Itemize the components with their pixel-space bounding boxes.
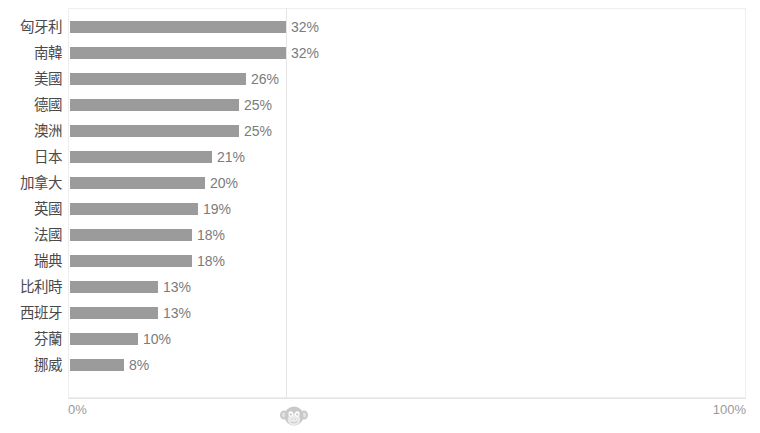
category-label: 芬蘭 <box>0 326 62 352</box>
bar-row: 匈牙利32% <box>0 14 760 40</box>
bar-value-label: 21% <box>217 144 245 170</box>
category-label: 德國 <box>0 92 62 118</box>
x-axis-tick-max: 100% <box>713 402 746 417</box>
bar-row: 瑞典18% <box>0 248 760 274</box>
bar <box>70 151 212 163</box>
bar-value-label: 19% <box>203 196 231 222</box>
bar <box>70 203 198 215</box>
bar-row: 英國19% <box>0 196 760 222</box>
bar-value-label: 18% <box>197 248 225 274</box>
bar <box>70 359 124 371</box>
category-label: 英國 <box>0 196 62 222</box>
bar-value-label: 10% <box>143 326 171 352</box>
category-label: 比利時 <box>0 274 62 300</box>
bar-row: 芬蘭10% <box>0 326 760 352</box>
bar <box>70 99 239 111</box>
category-label: 西班牙 <box>0 300 62 326</box>
bar <box>70 177 205 189</box>
bar <box>70 333 138 345</box>
bar-value-label: 32% <box>291 14 319 40</box>
bar <box>70 21 286 33</box>
category-label: 日本 <box>0 144 62 170</box>
bar <box>70 125 239 137</box>
bar-row: 德國25% <box>0 92 760 118</box>
bar-row: 挪威8% <box>0 352 760 378</box>
bar-value-label: 13% <box>163 274 191 300</box>
x-axis-tick-min: 0% <box>68 402 87 417</box>
bar-rows: 匈牙利32%南韓32%美國26%德國25%澳洲25%日本21%加拿大20%英國1… <box>0 8 760 398</box>
category-label: 美國 <box>0 66 62 92</box>
bar-value-label: 25% <box>244 92 272 118</box>
bar <box>70 307 158 319</box>
category-label: 匈牙利 <box>0 14 62 40</box>
bar-value-label: 32% <box>291 40 319 66</box>
bar-value-label: 13% <box>163 300 191 326</box>
cropped-chart-title <box>8 0 12 5</box>
category-label: 瑞典 <box>0 248 62 274</box>
bar <box>70 255 192 267</box>
category-label: 加拿大 <box>0 170 62 196</box>
bar-row: 美國26% <box>0 66 760 92</box>
category-label: 南韓 <box>0 40 62 66</box>
x-axis-line <box>68 398 746 399</box>
bar-value-label: 20% <box>210 170 238 196</box>
bar-value-label: 8% <box>129 352 149 378</box>
bar-row: 西班牙13% <box>0 300 760 326</box>
bar-row: 澳洲25% <box>0 118 760 144</box>
bar-value-label: 25% <box>244 118 272 144</box>
bar-chart: 匈牙利32%南韓32%美國26%德國25%澳洲25%日本21%加拿大20%英國1… <box>0 0 760 433</box>
bar-value-label: 26% <box>251 66 279 92</box>
bar-row: 南韓32% <box>0 40 760 66</box>
bar <box>70 281 158 293</box>
bar-value-label: 18% <box>197 222 225 248</box>
bar <box>70 73 246 85</box>
bar-row: 法國18% <box>0 222 760 248</box>
monkey-logo-icon <box>280 404 308 429</box>
bar <box>70 229 192 241</box>
bar <box>70 47 286 59</box>
bar-row: 比利時13% <box>0 274 760 300</box>
category-label: 法國 <box>0 222 62 248</box>
category-label: 挪威 <box>0 352 62 378</box>
bar-row: 日本21% <box>0 144 760 170</box>
bar-row: 加拿大20% <box>0 170 760 196</box>
category-label: 澳洲 <box>0 118 62 144</box>
